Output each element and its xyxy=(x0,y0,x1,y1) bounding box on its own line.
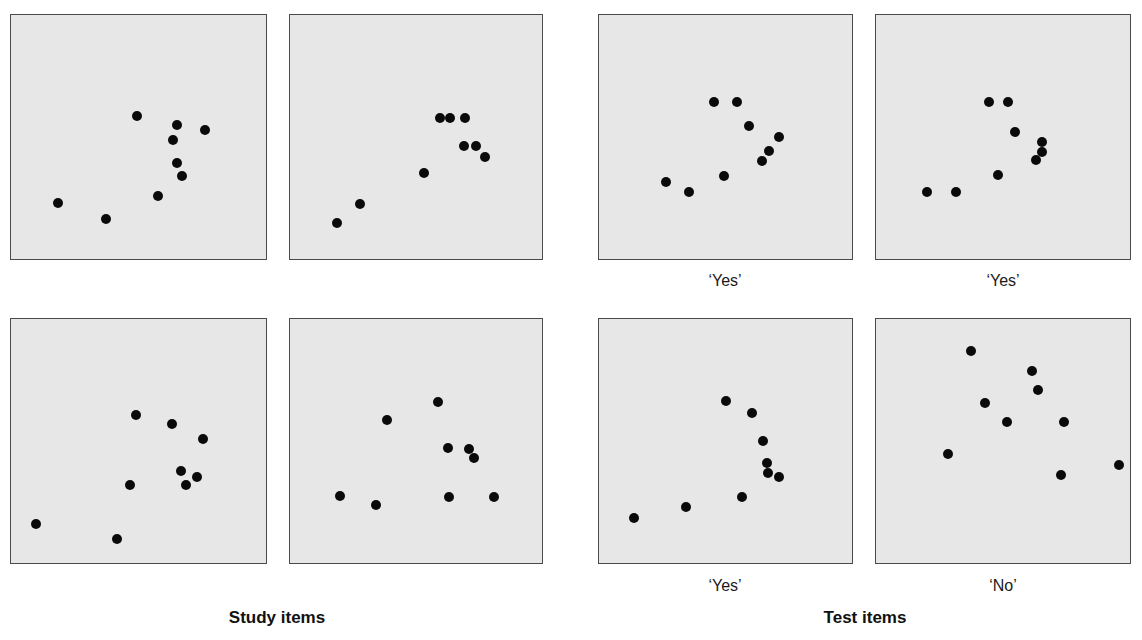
dot-marker xyxy=(993,170,1003,180)
dot-marker xyxy=(480,152,490,162)
dot-marker xyxy=(112,534,122,544)
test-item-4-response-label: ‘No’ xyxy=(923,577,1083,595)
dot-marker xyxy=(167,419,177,429)
dot-marker xyxy=(1059,417,1069,427)
dot-marker xyxy=(774,472,784,482)
dot-marker xyxy=(763,468,773,478)
dot-pattern-panel-study-3 xyxy=(10,318,267,564)
dot-marker xyxy=(335,491,345,501)
dot-marker xyxy=(445,113,455,123)
dot-marker xyxy=(444,492,454,502)
dot-marker xyxy=(181,480,191,490)
dot-marker xyxy=(198,434,208,444)
dot-marker xyxy=(101,214,111,224)
dot-marker xyxy=(168,135,178,145)
test-item-2-response-label: ‘Yes’ xyxy=(923,272,1083,290)
dot-marker xyxy=(1114,460,1124,470)
dot-marker xyxy=(966,346,976,356)
dot-marker xyxy=(1031,155,1041,165)
dot-marker xyxy=(744,121,754,131)
dot-marker xyxy=(984,97,994,107)
dot-marker xyxy=(1056,470,1066,480)
dot-pattern-panel-test-4 xyxy=(875,318,1131,564)
dot-marker xyxy=(131,410,141,420)
dot-marker xyxy=(757,156,767,166)
dot-marker xyxy=(192,472,202,482)
dot-marker xyxy=(176,466,186,476)
dot-marker xyxy=(489,492,499,502)
dot-pattern-panel-study-2 xyxy=(289,14,543,260)
dot-marker xyxy=(719,171,729,181)
dot-marker xyxy=(200,125,210,135)
dot-marker xyxy=(31,519,41,529)
dot-marker xyxy=(371,500,381,510)
dot-marker xyxy=(132,111,142,121)
dot-marker xyxy=(1037,137,1047,147)
dot-marker xyxy=(758,436,768,446)
dot-marker xyxy=(629,513,639,523)
dot-marker xyxy=(774,132,784,142)
dot-marker xyxy=(951,187,961,197)
dot-pattern-panel-test-3 xyxy=(598,318,853,564)
dot-marker xyxy=(382,415,392,425)
dot-marker xyxy=(460,113,470,123)
test-items-title: Test items xyxy=(745,608,985,628)
test-item-3-response-label: ‘Yes’ xyxy=(645,577,805,595)
test-item-1-response-label: ‘Yes’ xyxy=(645,272,805,290)
dot-marker xyxy=(737,492,747,502)
dot-marker xyxy=(709,97,719,107)
dot-marker xyxy=(153,191,163,201)
dot-marker xyxy=(1003,97,1013,107)
dot-marker xyxy=(332,218,342,228)
dot-marker xyxy=(443,443,453,453)
dot-marker xyxy=(721,396,731,406)
dot-marker xyxy=(125,480,135,490)
dot-marker xyxy=(943,449,953,459)
dot-marker xyxy=(433,397,443,407)
dot-pattern-panel-study-4 xyxy=(289,318,543,564)
dot-marker xyxy=(764,146,774,156)
dot-marker xyxy=(471,141,481,151)
dot-marker xyxy=(177,171,187,181)
dot-marker xyxy=(435,113,445,123)
dot-pattern-panel-test-2 xyxy=(875,14,1131,260)
dot-pattern-panel-study-1 xyxy=(10,14,267,260)
dot-marker xyxy=(469,453,479,463)
dot-marker xyxy=(459,141,469,151)
dot-marker xyxy=(980,398,990,408)
dot-marker xyxy=(1010,127,1020,137)
study-items-title: Study items xyxy=(157,608,397,628)
dot-marker xyxy=(661,177,671,187)
dot-marker xyxy=(1002,417,1012,427)
dot-marker xyxy=(172,158,182,168)
dot-marker xyxy=(172,120,182,130)
dot-marker xyxy=(1033,385,1043,395)
dot-marker xyxy=(922,187,932,197)
dot-marker xyxy=(762,458,772,468)
dot-pattern-panel-test-1 xyxy=(598,14,853,260)
dot-marker xyxy=(1027,366,1037,376)
dot-marker xyxy=(681,502,691,512)
dot-marker xyxy=(355,199,365,209)
dot-marker xyxy=(684,187,694,197)
dot-marker xyxy=(747,408,757,418)
dot-marker xyxy=(419,168,429,178)
dot-marker xyxy=(732,97,742,107)
dot-marker xyxy=(53,198,63,208)
